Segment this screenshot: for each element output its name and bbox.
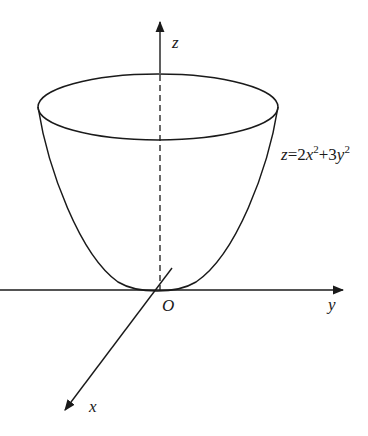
equation-label: z=2x2+3y2 [280, 143, 350, 164]
surface-rim-ellipse [38, 74, 278, 140]
x-axis-label: x [88, 397, 97, 416]
paraboloid-profile [38, 107, 278, 291]
y-axis-label: y [326, 295, 336, 314]
z-axis-label: z [171, 33, 179, 52]
origin-label: O [162, 296, 174, 315]
paraboloid-diagram: z y x O z=2x2+3y2 [0, 0, 368, 436]
